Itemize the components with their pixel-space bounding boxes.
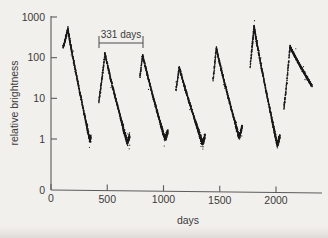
y-tick-label-1000: 1000	[22, 11, 46, 23]
x-tick-label-1000: 1000	[152, 193, 176, 205]
x-tick-label-2000: 2000	[264, 194, 288, 206]
period-annotation: 331 days	[99, 29, 143, 48]
chart-axes	[51, 16, 322, 193]
y-axis-title: relative brightness	[8, 60, 20, 145]
x-tick-label-500: 500	[98, 193, 116, 205]
light-curve-figure: 1101001000 0500100015002000 0 relative b…	[0, 0, 328, 238]
x-axis-line	[51, 190, 322, 193]
y-tick-label-100: 100	[27, 51, 45, 63]
chart-canvas: 1101001000 0500100015002000 0 relative b…	[0, 0, 328, 238]
x-axis-title: days	[177, 214, 199, 226]
y-tick-label-1: 1	[39, 133, 45, 145]
y-axis-ticks: 1101001000	[22, 11, 57, 145]
x-axis-ticks: 0500100015002000	[48, 184, 288, 206]
y-tick-label-10: 10	[33, 92, 45, 104]
y-axis-origin-label: 0	[39, 184, 45, 196]
period-annotation-label: 331 days	[101, 29, 142, 40]
x-tick-label-1500: 1500	[208, 194, 232, 206]
x-tick-label-0: 0	[48, 192, 54, 204]
